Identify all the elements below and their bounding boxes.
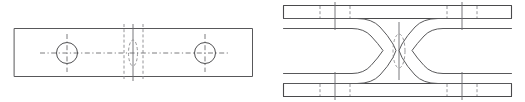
sheet-background [0,0,525,102]
drawing-sheet [0,0,525,102]
engineering-drawing-canvas [0,0,525,102]
